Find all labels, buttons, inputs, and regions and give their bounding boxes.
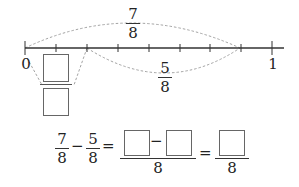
eq-minus: − xyxy=(71,139,83,154)
eq-equals-2: = xyxy=(199,146,211,161)
numerator: 7 xyxy=(128,6,138,22)
label-one: 1 xyxy=(266,57,280,72)
label-zero: 0 xyxy=(19,57,33,72)
denominator: 8 xyxy=(88,150,98,166)
numerator: 5 xyxy=(88,131,98,147)
combined-denominator: 8 xyxy=(151,161,165,176)
answer-fraction-bar xyxy=(40,84,72,85)
combined-left-box[interactable] xyxy=(124,130,150,156)
eq-equals-1: = xyxy=(102,139,114,154)
denominator: 8 xyxy=(160,79,170,95)
denominator: 8 xyxy=(128,25,138,41)
combined-right-box[interactable] xyxy=(166,130,192,156)
denominator: 8 xyxy=(57,150,67,166)
upper-arc-label: 7 8 xyxy=(126,6,140,41)
numerator: 7 xyxy=(57,131,67,147)
eq-term2: 5 8 xyxy=(86,131,100,166)
answer-denominator-box[interactable] xyxy=(43,88,69,116)
numerator: 5 xyxy=(160,60,170,76)
result-denominator: 8 xyxy=(225,161,239,176)
lower-arc-label: 5 8 xyxy=(158,60,172,95)
combined-minus: − xyxy=(150,134,160,149)
result-numerator-box[interactable] xyxy=(219,130,245,156)
eq-term1: 7 8 xyxy=(55,131,69,166)
answer-numerator-box[interactable] xyxy=(43,54,69,82)
